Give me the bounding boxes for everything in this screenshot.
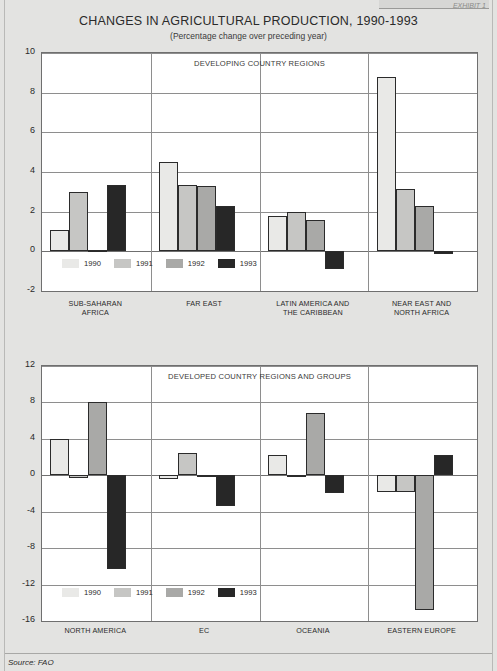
legend-item: 1990 bbox=[62, 588, 101, 597]
bar bbox=[197, 186, 216, 251]
category-divider bbox=[151, 53, 152, 291]
x-axis-tick-label-line: THE CARIBBEAN bbox=[259, 309, 368, 318]
bar bbox=[216, 475, 235, 506]
chart-title: CHANGES IN AGRICULTURAL PRODUCTION, 1990… bbox=[0, 14, 497, 28]
y-axis-tick-label: 8 bbox=[7, 395, 35, 405]
bar bbox=[88, 402, 107, 475]
legend-swatch bbox=[166, 588, 183, 597]
exhibit-page: EXHIBIT 1 CHANGES IN AGRICULTURAL PRODUC… bbox=[0, 0, 497, 671]
bar bbox=[197, 475, 216, 477]
panel-caption-developed: DEVELOPED COUNTRY REGIONS AND GROUPS bbox=[42, 372, 477, 381]
legend-swatch bbox=[114, 259, 131, 268]
exhibit-tag: EXHIBIT 1 bbox=[379, 0, 489, 9]
x-axis-tick-label: EC bbox=[150, 627, 259, 636]
x-axis-tick-label-line: NORTH AFRICA bbox=[367, 309, 476, 318]
x-axis-tick-label: LATIN AMERICA ANDTHE CARIBBEAN bbox=[259, 300, 368, 317]
legend-swatch bbox=[62, 259, 79, 268]
bar bbox=[377, 77, 396, 252]
bar bbox=[216, 206, 235, 252]
bar bbox=[434, 251, 453, 254]
bar bbox=[325, 475, 344, 493]
legend-label: 1990 bbox=[84, 588, 101, 597]
plot-area-developing bbox=[42, 53, 477, 291]
bar bbox=[107, 475, 126, 569]
bar bbox=[306, 220, 325, 252]
y-axis-tick-label: 4 bbox=[7, 432, 35, 442]
x-axis-tick-label-line: EC bbox=[150, 627, 259, 636]
bar bbox=[415, 206, 434, 252]
bar bbox=[415, 475, 434, 610]
category-divider bbox=[368, 53, 369, 291]
bar bbox=[69, 192, 88, 252]
legend-label: 1990 bbox=[84, 259, 101, 268]
legend-swatch bbox=[166, 259, 183, 268]
legend-item: 1991 bbox=[114, 259, 153, 268]
legend-item: 1992 bbox=[166, 259, 205, 268]
x-axis-tick-label-line: FAR EAST bbox=[150, 300, 259, 309]
legend-item: 1992 bbox=[166, 588, 205, 597]
x-axis-tick-label: NORTH AMERICA bbox=[41, 627, 150, 636]
plot-area-developed bbox=[42, 366, 477, 621]
x-axis-tick-label: FAR EAST bbox=[150, 300, 259, 309]
bar bbox=[178, 453, 197, 475]
bar bbox=[268, 216, 287, 252]
bar bbox=[159, 475, 178, 479]
page-edge-right-rule bbox=[492, 0, 493, 671]
footer-divider bbox=[5, 653, 492, 654]
x-axis-tick-label-line: OCEANIA bbox=[259, 627, 368, 636]
bar bbox=[306, 413, 325, 475]
legend-swatch bbox=[218, 588, 235, 597]
legend-developed: 1990199119921993 bbox=[62, 588, 270, 597]
chart-subtitle: (Percentage change over preceding year) bbox=[0, 31, 497, 41]
y-axis-tick-label: 0 bbox=[7, 244, 35, 254]
x-axis-tick-label-line: NORTH AMERICA bbox=[41, 627, 150, 636]
y-axis-tick-label: 6 bbox=[7, 125, 35, 135]
y-axis-tick-label: -2 bbox=[7, 284, 35, 294]
y-axis-tick-label: 4 bbox=[7, 165, 35, 175]
bar bbox=[287, 475, 306, 477]
legend-label: 1991 bbox=[136, 588, 153, 597]
legend-swatch bbox=[62, 588, 79, 597]
bar bbox=[50, 439, 69, 475]
x-axis-tick-label: EASTERN EUROPE bbox=[367, 627, 476, 636]
x-axis-tick-label: OCEANIA bbox=[259, 627, 368, 636]
y-axis-tick-label: -16 bbox=[7, 614, 35, 624]
x-axis-tick-label: SUB-SAHARANAFRICA bbox=[41, 300, 150, 317]
legend-label: 1991 bbox=[136, 259, 153, 268]
source-note: Source: FAO bbox=[8, 658, 54, 667]
y-axis-tick-label: 0 bbox=[7, 468, 35, 478]
legend-swatch bbox=[114, 588, 131, 597]
bar bbox=[396, 189, 415, 251]
bar bbox=[268, 455, 287, 475]
y-axis-tick-label: 2 bbox=[7, 205, 35, 215]
bar bbox=[396, 475, 415, 491]
bar bbox=[434, 455, 453, 475]
bar bbox=[178, 185, 197, 251]
bar bbox=[50, 230, 69, 252]
y-axis-tick-label: 8 bbox=[7, 86, 35, 96]
y-axis-tick-label: -4 bbox=[7, 505, 35, 515]
legend-item: 1990 bbox=[62, 259, 101, 268]
bar bbox=[159, 162, 178, 251]
x-axis-tick-label-line: AFRICA bbox=[41, 309, 150, 318]
legend-item: 1993 bbox=[218, 259, 257, 268]
page-edge-left-rule bbox=[4, 0, 5, 671]
bar bbox=[325, 251, 344, 269]
legend-label: 1992 bbox=[188, 588, 205, 597]
bar bbox=[69, 475, 88, 478]
category-divider bbox=[260, 53, 261, 291]
legend-item: 1993 bbox=[218, 588, 257, 597]
bar bbox=[377, 475, 396, 491]
legend-label: 1993 bbox=[240, 588, 257, 597]
legend-developing: 1990199119921993 bbox=[62, 259, 270, 268]
legend-swatch bbox=[218, 259, 235, 268]
legend-label: 1993 bbox=[240, 259, 257, 268]
x-axis-tick-label-line: EASTERN EUROPE bbox=[367, 627, 476, 636]
chart-panel-developed: DEVELOPED COUNTRY REGIONS AND GROUPS bbox=[41, 365, 478, 622]
bar bbox=[88, 250, 107, 252]
category-divider bbox=[368, 366, 369, 621]
bar bbox=[107, 185, 126, 251]
y-axis-tick-label: -12 bbox=[7, 578, 35, 588]
legend-label: 1992 bbox=[188, 259, 205, 268]
y-axis-tick-label: 12 bbox=[7, 359, 35, 369]
